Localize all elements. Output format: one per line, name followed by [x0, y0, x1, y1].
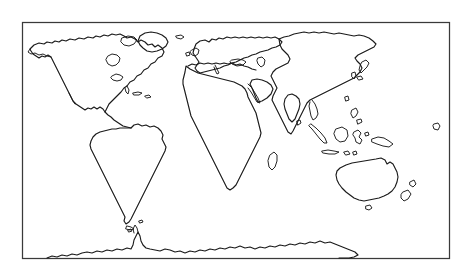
central-america-outline	[105, 112, 131, 128]
tasmania-outline	[366, 205, 372, 210]
world-map-svg	[0, 0, 474, 278]
iceland-outline	[176, 35, 184, 39]
sulawesi-outline	[353, 130, 362, 144]
new-guinea-outline	[372, 137, 393, 147]
new-zealand-south-outline	[401, 190, 411, 201]
arabian-peninsula-outline	[250, 79, 273, 102]
moluccas-islet	[365, 132, 369, 136]
alaska-outline	[28, 49, 51, 57]
philippines-outline	[351, 108, 358, 118]
philippines-south-outline	[357, 119, 362, 124]
new-zealand-north-outline	[410, 180, 416, 187]
south-america-outline	[90, 124, 166, 224]
southeast-asia-outline	[309, 100, 318, 120]
caspian-sea-outline	[257, 57, 265, 67]
caribbean-islands-outline	[133, 92, 142, 95]
baja-california-outline	[69, 93, 75, 104]
hudson-bay-outline	[106, 54, 120, 66]
japan-south-island-outline	[357, 76, 363, 80]
borneo-outline	[334, 127, 348, 142]
java-outline	[322, 150, 339, 154]
antarctica-outline	[47, 232, 358, 258]
north-america-outline	[30, 34, 164, 112]
africa-outline	[183, 66, 261, 190]
south-atlantic-islet	[139, 220, 143, 223]
timor-outline	[344, 151, 350, 155]
lesser-sunda-islet	[353, 151, 357, 155]
sumatra-outline	[309, 124, 327, 143]
great-lakes-outline	[111, 74, 123, 81]
map-border-frame	[23, 23, 450, 259]
taiwan-outline	[345, 96, 349, 101]
australia-outline	[336, 158, 398, 201]
pacific-island-outline	[433, 123, 440, 130]
madagascar-outline	[268, 152, 277, 170]
greenland-outline	[138, 32, 168, 52]
europe-outline	[193, 37, 282, 73]
sri-lanka-outline	[297, 120, 301, 125]
ireland-outline	[186, 52, 190, 56]
hispaniola-outline	[145, 95, 151, 98]
india-outline	[284, 94, 300, 122]
world-map-figure: Blank World Map Outline Black-and-white …	[0, 0, 474, 278]
south-shetland-islet	[128, 229, 132, 232]
italy-outline	[214, 65, 219, 74]
